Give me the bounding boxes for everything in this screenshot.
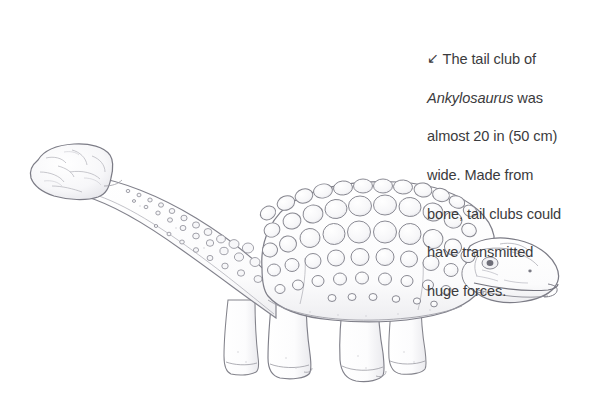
caption-line-5: bone, tail clubs could bbox=[427, 205, 595, 224]
genus-name: Ankylosaurus bbox=[427, 90, 513, 106]
arrow-down-left-icon: ↙ bbox=[427, 49, 439, 68]
caption-block: ↙ The tail club of Ankylosaurus was almo… bbox=[427, 31, 595, 320]
caption-line-7: huge forces. bbox=[427, 282, 595, 301]
caption-line-1-text: The tail club of bbox=[443, 51, 536, 67]
caption-line-2: Ankylosaurus was bbox=[427, 89, 595, 108]
caption-line-6: have transmitted bbox=[427, 243, 595, 262]
caption-line-4: wide. Made from bbox=[427, 166, 595, 185]
caption-line-2-text: was bbox=[513, 90, 543, 106]
illustration-page: ↙ The tail club of Ankylosaurus was almo… bbox=[0, 0, 610, 406]
caption-line-3: almost 20 in (50 cm) bbox=[427, 127, 595, 146]
caption-line-1: ↙ The tail club of bbox=[427, 50, 595, 69]
